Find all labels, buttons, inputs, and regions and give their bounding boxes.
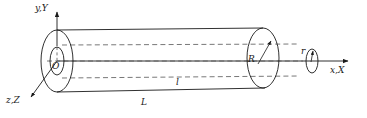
origin-label: O — [52, 62, 59, 71]
x-axis-label: x,X — [330, 66, 344, 75]
figure-canvas: y,Y x,X z,Z O R r l L — [0, 0, 367, 118]
cylinder-top-edge — [57, 28, 263, 30]
dashed-line-lower — [62, 76, 299, 78]
radius-r-arrow — [311, 51, 313, 62]
dashed-line-upper — [62, 44, 299, 45]
cylinder-bottom-edge — [57, 88, 265, 92]
cylinder-diagram-svg — [0, 0, 367, 118]
y-axis-label: y,Y — [35, 4, 48, 13]
length-l-label: l — [176, 78, 179, 87]
radius-r-label: r — [301, 47, 305, 56]
length-L-label: L — [141, 98, 147, 107]
z-axis-label: z,Z — [6, 96, 20, 105]
radius-R-label: R — [248, 55, 255, 64]
